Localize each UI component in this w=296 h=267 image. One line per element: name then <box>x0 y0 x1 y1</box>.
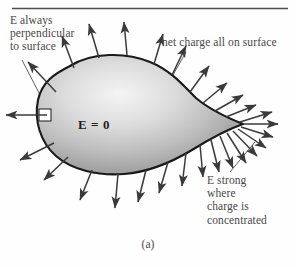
field-arrow-bottom-3 <box>138 170 146 202</box>
field-arrow-bottom-left <box>20 143 54 160</box>
field-arrow-top-1 <box>89 24 99 58</box>
field-arrow-bottom-6 <box>44 157 68 180</box>
label-net-charge-on-surface: net charge all on surface <box>162 36 277 49</box>
label-e-perpendicular: E always perpendicular to surface <box>10 14 75 54</box>
label-e-strong-where-charge-concentrated: E strong where charge is concentrated <box>207 174 267 227</box>
field-arrow-top-8 <box>226 105 256 117</box>
label-interior-field-zero: E = 0 <box>78 117 110 133</box>
figure-caption: (a) <box>0 238 296 250</box>
physics-figure-conductor-field: E always perpendicular to surface net ch… <box>0 0 296 267</box>
field-arrow-tip-7 <box>220 136 233 168</box>
field-arrow-top-5 <box>190 66 209 92</box>
field-arrow-top-7 <box>215 95 243 111</box>
field-arrow-tip-1 <box>240 112 272 122</box>
field-arrow-bottom-1 <box>182 153 186 186</box>
field-arrow-tip-3 <box>241 127 273 137</box>
field-arrow-bottom-4 <box>115 174 118 208</box>
field-arrow-tip-8 <box>211 140 219 172</box>
field-arrow-bottom-5 <box>80 170 92 200</box>
field-arrow-tip-9 <box>200 145 203 177</box>
field-arrow-top-6 <box>203 83 227 103</box>
field-arrow-top-4 <box>172 46 186 75</box>
conductor-blob <box>37 55 243 174</box>
field-arrow-top-2 <box>124 22 127 55</box>
